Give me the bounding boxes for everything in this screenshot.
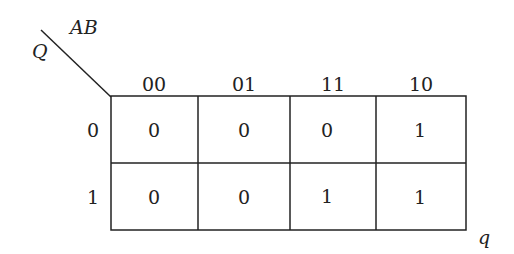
- column-header: 01: [232, 75, 256, 94]
- row-header: 1: [87, 188, 99, 207]
- kmap-cell: 0: [148, 188, 160, 207]
- kmap-cell: 1: [321, 187, 333, 206]
- kmap-cell: 0: [148, 121, 160, 140]
- column-header: 11: [321, 75, 345, 94]
- column-header: 00: [142, 75, 166, 94]
- kmap-cell: 0: [238, 188, 250, 207]
- kmap-cell: 0: [321, 121, 333, 140]
- kmap-cell: 1: [414, 121, 426, 140]
- row-variable-label: Q: [32, 42, 48, 61]
- column-header: 10: [409, 75, 433, 94]
- row-header: 0: [87, 121, 99, 140]
- column-variable-label: AB: [70, 18, 98, 37]
- output-label: q: [478, 228, 490, 247]
- kmap-cell: 0: [238, 121, 250, 140]
- kmap-lines: [0, 0, 514, 254]
- kmap-cell: 1: [414, 188, 426, 207]
- diagonal-divider: [41, 30, 111, 97]
